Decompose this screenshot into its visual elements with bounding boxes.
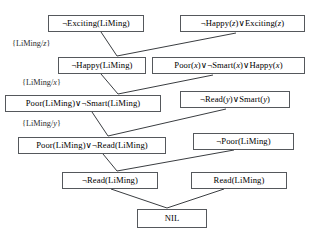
edge-not-happy-to-poor-smart: [101, 74, 118, 94]
clause-text: Poor(LiMing)∨¬Smart(LiMing): [23, 99, 144, 108]
substitution-liming-x: {LiMing/x}: [22, 79, 61, 87]
clause-text: Read(LiMing): [211, 176, 268, 185]
resolution-proof-diagram: ¬Exciting(LiMing)¬Happy(z)∨Exciting(z)¬H…: [0, 0, 312, 243]
edge-not-exciting-to-not-happy: [101, 32, 117, 56]
edge-read-to-nil: [167, 189, 224, 208]
substitution-liming-y: {LiMing/y}: [22, 120, 61, 128]
clause-node-not-happy-z-or-exciting-z[interactable]: ¬Happy(z)∨Exciting(z): [180, 15, 305, 32]
clause-node-poor-liming-or-not-read-liming[interactable]: Poor(LiMing)∨¬Read(LiMing): [18, 137, 166, 154]
clause-node-poor-liming-or-not-smart-liming[interactable]: Poor(LiMing)∨¬Smart(LiMing): [5, 95, 161, 112]
clause-text: ¬Poor(LiMing): [213, 137, 273, 146]
clause-text: NIL: [162, 214, 183, 223]
clause-node-not-exciting-liming[interactable]: ¬Exciting(LiMing): [48, 15, 144, 32]
clause-text: ¬Exciting(LiMing): [59, 19, 133, 28]
clause-node-nil-empty-clause[interactable]: NIL: [137, 209, 207, 228]
clause-text: ¬Read(y)∨Smart(y): [197, 95, 273, 104]
edge-not-read-to-nil: [111, 189, 167, 208]
clause-text: Poor(LiMing)∨¬Read(LiMing): [33, 141, 151, 150]
clause-text: Poor(x)∨¬Smart(x)∨Happy(x): [171, 61, 285, 70]
clause-node-not-read-y-or-smart-y[interactable]: ¬Read(y)∨Smart(y): [180, 91, 290, 108]
clause-node-not-poor-liming[interactable]: ¬Poor(LiMing): [193, 133, 294, 150]
clause-text: ¬Happy(LiMing): [68, 61, 135, 70]
edge-poor-smart-to-poor-read: [92, 112, 108, 136]
clause-text: ¬Read(LiMing): [79, 176, 141, 185]
substitution-liming-z: {LiMing/z}: [12, 40, 50, 48]
edge-poor-read-to-not-read: [103, 154, 117, 171]
edge-not-happy-z-to-not-happy: [117, 33, 236, 56]
clause-node-not-happy-liming[interactable]: ¬Happy(LiMing): [58, 57, 146, 74]
clause-node-not-read-liming[interactable]: ¬Read(LiMing): [62, 172, 158, 189]
clause-node-read-liming[interactable]: Read(LiMing): [191, 172, 287, 189]
edge-not-read-y-to-poor-read: [108, 109, 226, 136]
clause-node-poor-x-or-not-smart-x-or-happy-x[interactable]: Poor(x)∨¬Smart(x)∨Happy(x): [152, 57, 305, 74]
clause-text: ¬Happy(z)∨Exciting(z): [198, 19, 287, 28]
